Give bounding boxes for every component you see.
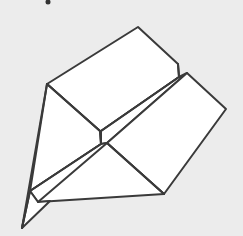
paper-airplane-drawing	[0, 0, 243, 236]
paper-airplane-illustration	[0, 0, 243, 236]
